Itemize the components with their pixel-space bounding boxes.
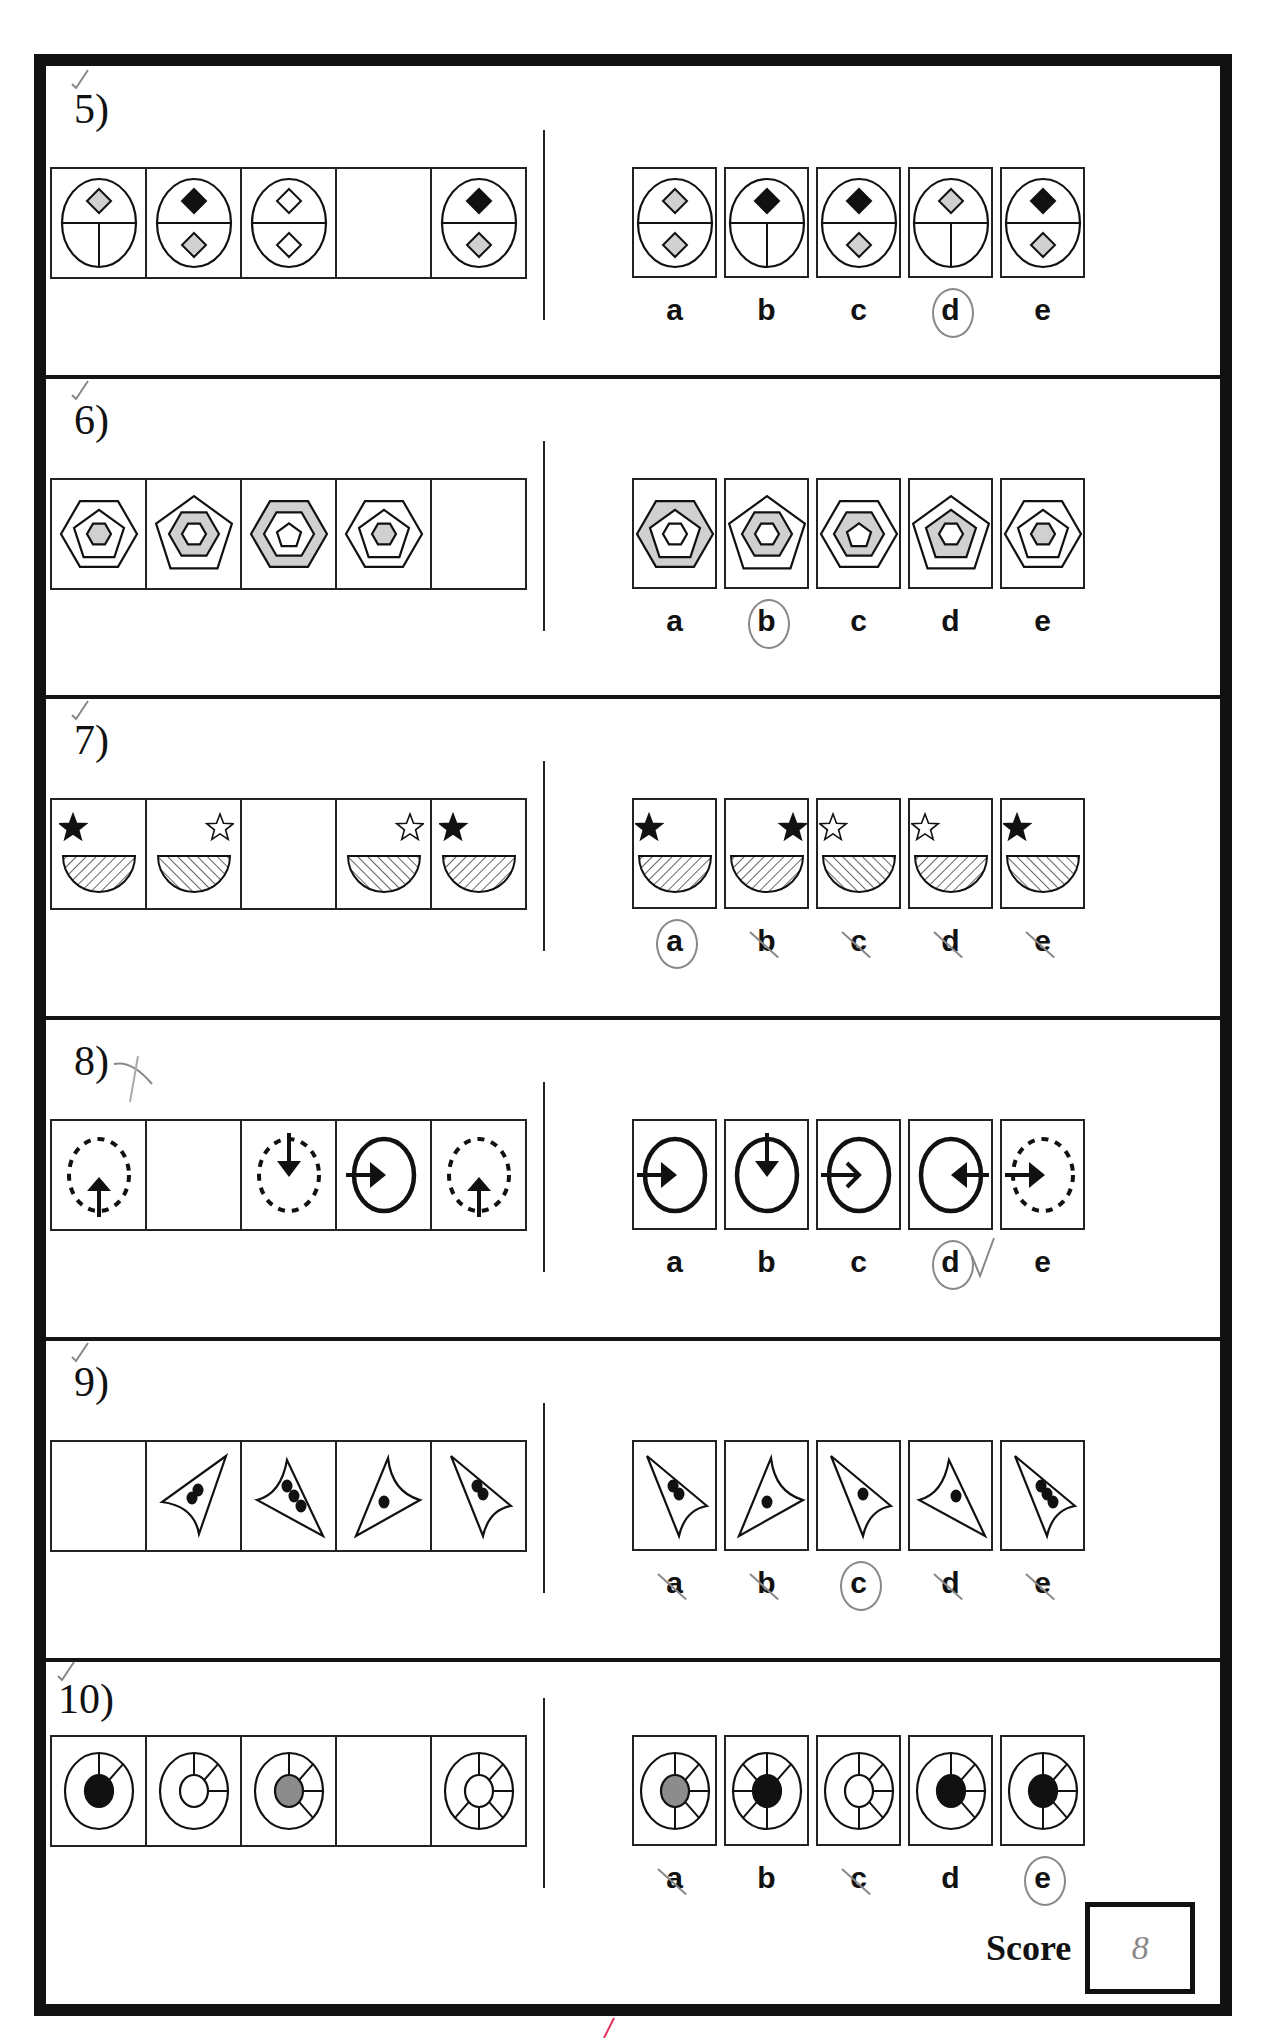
star-bowl-figure-icon [635,804,715,904]
option-figure-box[interactable] [816,1440,901,1551]
option-b[interactable]: b [724,478,809,639]
option-figure-box[interactable] [632,1440,717,1551]
option-d[interactable]: d [908,798,993,959]
option-figure-box[interactable] [632,798,717,909]
option-e[interactable]: e [1000,167,1085,328]
option-c[interactable]: c [816,167,901,328]
option-label[interactable]: e [1018,292,1068,328]
option-e[interactable]: e [1000,1735,1085,1896]
option-figure-box[interactable] [1000,1735,1085,1846]
option-figure-box[interactable] [908,1735,993,1846]
score-box[interactable]: 8 [1085,1902,1195,1994]
option-label[interactable]: a [650,1860,700,1896]
option-figure-box[interactable] [632,1119,717,1230]
option-a[interactable]: a [632,1440,717,1601]
option-label[interactable]: e [1018,1860,1068,1896]
option-a[interactable]: a [632,1735,717,1896]
option-figure-box[interactable] [724,478,809,589]
option-figure-box[interactable] [632,167,717,278]
option-e[interactable]: e [1000,798,1085,959]
option-figure-box[interactable] [632,478,717,589]
option-figure-box[interactable] [724,798,809,909]
option-figure-box[interactable] [724,1735,809,1846]
option-figure-box[interactable] [816,1735,901,1846]
option-label[interactable]: e [1018,923,1068,959]
option-figure-box[interactable] [816,167,901,278]
option-figure-box[interactable] [816,478,901,589]
option-label[interactable]: b [742,1244,792,1280]
option-figure-box[interactable] [816,798,901,909]
option-c[interactable]: c [816,798,901,959]
option-label[interactable]: e [1018,1565,1068,1601]
option-figure-box[interactable] [632,1735,717,1846]
option-label[interactable]: b [742,292,792,328]
option-label[interactable]: c [834,292,884,328]
option-figure-box[interactable] [908,798,993,909]
option-label[interactable]: e [1018,1244,1068,1280]
option-label[interactable]: d [926,1565,976,1601]
option-c[interactable]: c [816,478,901,639]
option-label[interactable]: c [834,1860,884,1896]
option-c[interactable]: c [816,1735,901,1896]
option-figure-box[interactable] [816,1119,901,1230]
option-d[interactable]: d [908,1440,993,1601]
option-figure-box[interactable] [1000,1440,1085,1551]
option-figure-box[interactable] [724,1119,809,1230]
option-label[interactable]: a [650,603,700,639]
option-e[interactable]: e [1000,478,1085,639]
option-figure-box[interactable] [1000,478,1085,589]
wheel-figure-icon [59,1741,139,1841]
nested-figure-icon [59,484,139,584]
option-label[interactable]: e [1018,603,1068,639]
option-a[interactable]: a [632,798,717,959]
option-b[interactable]: b [724,1735,809,1896]
option-figure-box[interactable] [1000,1119,1085,1230]
option-figure-box[interactable] [908,1440,993,1551]
circle-split-half-figure-icon [249,173,329,273]
option-figure-box[interactable] [1000,798,1085,909]
option-figure-box[interactable] [724,1440,809,1551]
nested-figure-icon [635,484,715,584]
option-label[interactable]: d [926,1860,976,1896]
option-e[interactable]: e [1000,1119,1085,1280]
option-label[interactable]: b [742,603,792,639]
option-label[interactable]: d [926,1244,976,1280]
option-d[interactable]: d [908,1119,993,1280]
option-label[interactable]: a [650,1244,700,1280]
option-label[interactable]: c [834,1565,884,1601]
option-d[interactable]: d [908,167,993,328]
option-d[interactable]: d [908,1735,993,1896]
option-a[interactable]: a [632,478,717,639]
option-figure-box[interactable] [908,1119,993,1230]
option-c[interactable]: c [816,1119,901,1280]
option-label[interactable]: b [742,1565,792,1601]
option-label[interactable]: d [926,923,976,959]
answer-options: abcde [632,478,1085,639]
option-figure-box[interactable] [724,167,809,278]
option-d[interactable]: d [908,478,993,639]
curved-triangle-figure-icon [1003,1446,1083,1546]
option-b[interactable]: b [724,798,809,959]
option-label[interactable]: d [926,292,976,328]
option-label[interactable]: c [834,1244,884,1280]
option-label[interactable]: b [742,1860,792,1896]
option-label[interactable]: b [742,923,792,959]
option-c[interactable]: c [816,1440,901,1601]
option-label[interactable]: c [834,603,884,639]
option-label[interactable]: c [834,923,884,959]
option-a[interactable]: a [632,1119,717,1280]
option-label[interactable]: a [650,292,700,328]
option-label[interactable]: a [650,1565,700,1601]
option-figure-box[interactable] [908,478,993,589]
option-b[interactable]: b [724,1119,809,1280]
option-b[interactable]: b [724,1440,809,1601]
option-a[interactable]: a [632,167,717,328]
option-letter: b [757,293,775,326]
option-label[interactable]: a [650,923,700,959]
option-e[interactable]: e [1000,1440,1085,1601]
answer-options: abcde [632,167,1085,328]
option-figure-box[interactable] [908,167,993,278]
option-figure-box[interactable] [1000,167,1085,278]
option-label[interactable]: d [926,603,976,639]
option-b[interactable]: b [724,167,809,328]
